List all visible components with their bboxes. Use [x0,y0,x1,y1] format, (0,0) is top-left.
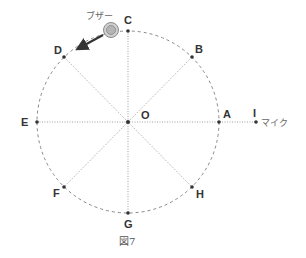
dot-b [190,55,194,59]
label-a: A [223,108,231,120]
label-d: D [54,44,62,56]
movement-arrow-icon [81,35,103,47]
label-h: H [196,188,204,200]
label-f: F [53,187,60,199]
label-e: E [21,116,28,128]
buzzer-label: ブザー [86,10,113,21]
buzzer-microphone-diagram: A B C D E F G H I O マイク ブザー 図7 [0,0,306,258]
microphone-label: マイク [261,118,288,128]
point-dots [35,29,258,215]
buzzer-icon [104,23,119,38]
label-c: C [124,14,132,26]
dot-g [126,211,130,215]
diameter-lines [37,31,256,213]
dot-a [217,120,221,124]
label-i: I [253,107,256,119]
dot-f [62,185,66,189]
dot-d [62,55,66,59]
figure-caption: 図7 [119,236,135,247]
label-g: G [124,218,133,230]
dot-e [35,120,39,124]
dot-o [126,120,130,124]
dot-h [190,185,194,189]
label-b: B [195,43,203,55]
dot-i [254,120,258,124]
label-o: O [141,109,150,121]
dot-c [126,29,130,33]
